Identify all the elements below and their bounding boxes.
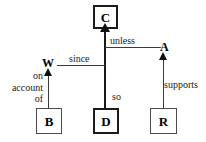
edge-label-so: so bbox=[112, 92, 121, 103]
node-box-r[interactable]: R bbox=[150, 108, 177, 134]
edge-label-unless: unless bbox=[110, 36, 135, 47]
edge-line-b-to-w bbox=[48, 76, 49, 108]
arrowhead-d-to-c-icon bbox=[100, 23, 110, 32]
arrowhead-b-to-w-icon bbox=[44, 68, 52, 76]
edge-line-since bbox=[57, 65, 105, 66]
edge-label-of: of bbox=[5, 93, 43, 105]
edge-label-on: on bbox=[5, 70, 43, 82]
node-box-b-label: B bbox=[45, 115, 54, 128]
edge-line-unless bbox=[105, 47, 161, 48]
node-box-c-label: C bbox=[101, 11, 110, 24]
node-box-d[interactable]: D bbox=[93, 108, 119, 134]
edge-label-supports: supports bbox=[164, 80, 198, 91]
node-box-d-label: D bbox=[101, 115, 110, 128]
node-box-b[interactable]: B bbox=[36, 108, 62, 134]
edge-label-account: account bbox=[5, 82, 43, 94]
arrowhead-r-to-a-icon bbox=[159, 52, 167, 60]
edge-line-d-to-c bbox=[104, 32, 106, 108]
argument-diagram-canvas: C B D R W A so on account of supports si… bbox=[0, 0, 206, 142]
edge-label-on-account-of: on account of bbox=[5, 70, 43, 105]
edge-label-since: since bbox=[69, 54, 90, 65]
node-box-r-label: R bbox=[159, 115, 168, 128]
